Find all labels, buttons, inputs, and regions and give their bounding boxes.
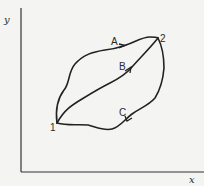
state-2-label: 2: [160, 33, 166, 44]
path-b-label: B: [119, 61, 126, 72]
process-diagram: y x A B C 2 1: [0, 0, 204, 186]
path-a-curve: [56, 37, 158, 123]
state-1-label: 1: [50, 122, 56, 133]
x-axis-label: x: [189, 174, 195, 185]
path-c-curve: [57, 38, 164, 130]
path-c-label: C: [119, 107, 126, 118]
path-b-curve: [57, 38, 158, 123]
path-a-label: A: [111, 36, 118, 47]
y-axis-label: y: [3, 14, 10, 25]
